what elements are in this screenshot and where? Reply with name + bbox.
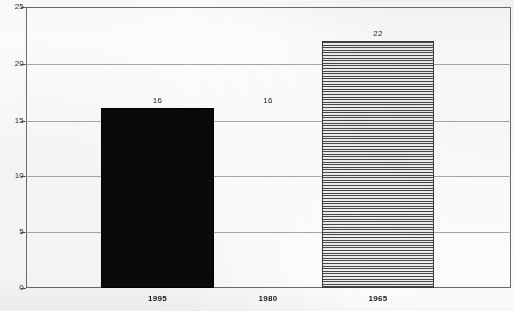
bar-1965[interactable]	[322, 41, 434, 288]
ytick-label-5: 5	[0, 227, 24, 236]
xtick-label-1995: 1995	[101, 294, 214, 303]
value-label-1965: 22	[322, 29, 434, 38]
gridline-10	[26, 176, 511, 177]
gridline-20	[26, 64, 511, 65]
bar-1995[interactable]	[101, 108, 214, 288]
value-label-1980: 16	[214, 96, 322, 105]
plot-area	[26, 7, 511, 288]
value-label-1995: 16	[101, 96, 214, 105]
ytick-label-10: 10	[0, 171, 24, 180]
bar-chart: 25 20 15 10 5 0 16 16 22 1995 1980 1965	[0, 0, 514, 311]
ytick-label-15: 15	[0, 116, 24, 125]
ytick-label-20: 20	[0, 59, 24, 68]
gridline-15	[26, 121, 511, 122]
gridline-5	[26, 232, 511, 233]
ytick-label-25: 25	[0, 2, 24, 11]
xtick-label-1980: 1980	[214, 294, 322, 303]
xtick-label-1965: 1965	[322, 294, 434, 303]
ytick-label-0: 0	[0, 283, 24, 292]
